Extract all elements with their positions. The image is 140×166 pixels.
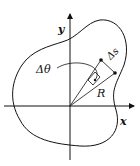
delta-theta-pointer: [57, 63, 97, 80]
y-axis-label: y: [57, 23, 66, 36]
point-1: [99, 58, 103, 62]
delta-s-label: Δs: [104, 45, 121, 62]
delta-theta-label: Δθ: [35, 63, 51, 76]
point-2: [113, 71, 117, 75]
x-axis-label: x: [119, 115, 127, 128]
angle-wedge-box: [88, 72, 100, 85]
radius-line-2: [70, 73, 115, 106]
polar-area-diagram: y x Δθ Δs R: [0, 0, 140, 166]
delta-s-segment: [101, 60, 115, 73]
radius-label: R: [96, 87, 105, 100]
